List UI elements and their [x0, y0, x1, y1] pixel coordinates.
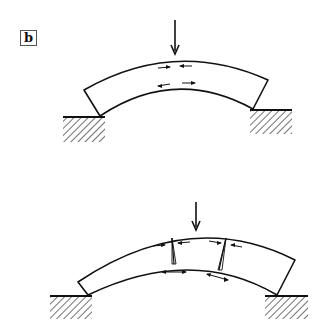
right-support — [250, 110, 292, 134]
compression-arrows-icon — [158, 64, 192, 69]
figure-canvas — [0, 0, 323, 335]
tension-arrows-icon — [161, 270, 229, 282]
tension-arrows-icon — [157, 81, 196, 88]
arch-beam — [78, 238, 295, 295]
intact-arch-diagram — [63, 20, 292, 142]
left-support — [63, 117, 105, 142]
load-arrow-icon — [171, 20, 179, 54]
left-support — [50, 296, 92, 319]
arch-beam — [84, 61, 268, 116]
load-arrow-icon — [192, 202, 200, 230]
crack-left — [172, 238, 176, 264]
cracked-arch-diagram — [50, 202, 308, 319]
right-support — [265, 296, 308, 319]
